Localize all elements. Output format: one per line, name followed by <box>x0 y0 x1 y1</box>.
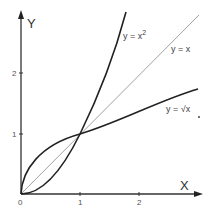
x-axis-arrow-icon <box>194 191 203 197</box>
chart: 0 1 2 1 2 Y X y = x2 y = x y = √x <box>0 0 214 216</box>
y-axis-label: Y <box>27 16 36 31</box>
label-y-equals-x: y = x <box>171 44 191 54</box>
label-x-squared: y = x2 <box>123 29 146 41</box>
x-tick-label-2: 2 <box>137 198 142 207</box>
y-tick-label-1: 1 <box>12 130 17 139</box>
stray-mark <box>198 116 200 118</box>
x-tick-label-1: 1 <box>78 198 83 207</box>
x-axis-label: X <box>180 178 189 193</box>
origin-label: 0 <box>18 198 23 207</box>
label-sqrt-x: y = √x <box>166 104 191 114</box>
y-tick-label-2: 2 <box>12 69 17 78</box>
y-axis-arrow-icon <box>18 10 24 19</box>
curve-y-equals-x-squared <box>21 12 126 194</box>
